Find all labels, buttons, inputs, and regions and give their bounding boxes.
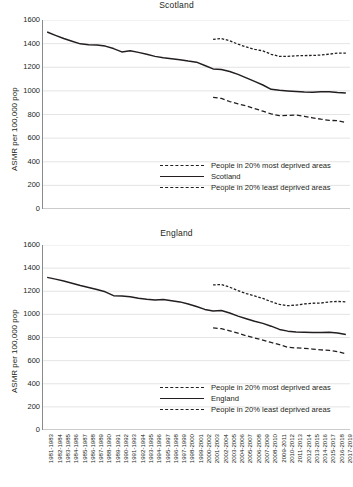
x-tick-label: 1985-1987 — [82, 434, 88, 463]
y-tick-label: 800 — [6, 334, 40, 342]
x-tick-label: 1990-1992 — [123, 434, 129, 463]
series-line — [213, 39, 346, 57]
y-tick-label: 600 — [6, 134, 40, 142]
legend-item: Scotland — [160, 171, 331, 182]
x-tick-label: 1983-1985 — [65, 434, 71, 463]
y-tick-label: 1400 — [6, 40, 40, 48]
x-tick-label: 2013-2015 — [314, 434, 320, 463]
y-tick-label: 200 — [6, 182, 40, 190]
y-tick-label: 800 — [6, 111, 40, 119]
legend-scotland: People in 20% most deprived areasScotlan… — [160, 160, 331, 193]
x-tick-label: 2001-2003 — [214, 434, 220, 463]
series-line — [47, 32, 346, 93]
x-tick-label: 1994-1996 — [156, 434, 162, 463]
x-tick-label: 2000-2002 — [206, 434, 212, 463]
panel-title-england: England — [0, 228, 353, 238]
legend-key-solid-icon — [160, 398, 204, 399]
x-tick-label: 2012-2014 — [306, 434, 312, 463]
legend-item: People in 20% least deprived areas — [160, 182, 331, 193]
x-tick-label: 2005-2007 — [247, 434, 253, 463]
x-tick-label: 1999-2001 — [198, 434, 204, 463]
x-tick-label: 1982-1984 — [57, 434, 63, 463]
x-tick-label: 2008-2010 — [272, 434, 278, 463]
y-tick-label: 0 — [6, 205, 40, 213]
legend-label: People in 20% least deprived areas — [211, 405, 330, 414]
x-tick-label: 2017-2019 — [347, 434, 353, 463]
series-line — [47, 277, 346, 334]
x-tick-label: 1995-1997 — [165, 434, 171, 463]
x-tick-label: 2004-2006 — [239, 434, 245, 463]
x-tick-label: 2009-2011 — [281, 434, 287, 463]
x-tick-label: 1997-1999 — [181, 434, 187, 463]
figure-root: Scotland ASMR per 100,000 pop 0200400600… — [0, 0, 353, 487]
legend-item: People in 20% least deprived areas — [160, 404, 331, 415]
x-tick-label: 1991-1993 — [131, 434, 137, 463]
legend-key-dotted-icon — [160, 165, 204, 166]
x-axis-ticks: 1981-19831982-19841983-19851984-19861985… — [42, 434, 349, 487]
x-tick-label: 2011-2013 — [297, 434, 303, 463]
y-tick-label: 0 — [6, 426, 40, 434]
legend-label: People in 20% least deprived areas — [211, 183, 330, 192]
x-tick-label: 2014-2016 — [322, 434, 328, 463]
y-tick-label: 400 — [6, 380, 40, 388]
x-tick-label: 1981-1983 — [48, 434, 54, 463]
x-tick-label: 1992-1994 — [140, 434, 146, 463]
legend-label: People in 20% most deprived areas — [211, 383, 331, 392]
legend-item: People in 20% most deprived areas — [160, 160, 331, 171]
panel-title-scotland: Scotland — [0, 0, 353, 10]
y-tick-label: 1000 — [6, 311, 40, 319]
y-tick-label: 1200 — [6, 288, 40, 296]
series-line — [213, 285, 346, 306]
chart-panel-scotland: Scotland ASMR per 100,000 pop 0200400600… — [0, 0, 353, 232]
x-tick-label: 2003-2005 — [231, 434, 237, 463]
x-tick-label: 2006-2008 — [256, 434, 262, 463]
x-tick-label: 2007-2009 — [264, 434, 270, 463]
x-tick-label: 1988-1990 — [106, 434, 112, 463]
legend-item: England — [160, 393, 331, 404]
legend-england: People in 20% most deprived areasEngland… — [160, 382, 331, 415]
legend-item: People in 20% most deprived areas — [160, 382, 331, 393]
legend-key-dashed-icon — [160, 409, 204, 410]
legend-key-dashed-icon — [160, 187, 204, 188]
x-tick-label: 1987-1989 — [98, 434, 104, 463]
y-tick-label: 1600 — [6, 16, 40, 24]
y-tick-label: 1000 — [6, 87, 40, 95]
series-line — [213, 97, 346, 122]
legend-label: People in 20% most deprived areas — [211, 161, 331, 170]
x-tick-label: 1998-2000 — [189, 434, 195, 463]
y-tick-label: 1400 — [6, 264, 40, 272]
legend-label: England — [211, 394, 239, 403]
y-axis-ticks-england: 02004006008001000120014001600 — [0, 245, 40, 430]
x-tick-label: 2016-2018 — [339, 434, 345, 463]
x-tick-label: 1984-1986 — [73, 434, 79, 463]
legend-key-dotted-icon — [160, 387, 204, 388]
x-tick-label: 2015-2017 — [330, 434, 336, 463]
x-tick-label: 1993-1995 — [148, 434, 154, 463]
legend-label: Scotland — [211, 172, 241, 181]
legend-key-solid-icon — [160, 176, 204, 177]
y-tick-label: 1200 — [6, 64, 40, 72]
y-axis-ticks-scotland: 02004006008001000120014001600 — [0, 20, 40, 209]
x-tick-label: 2010-2012 — [289, 434, 295, 463]
y-tick-label: 200 — [6, 403, 40, 411]
x-tick-label: 2002-2004 — [223, 434, 229, 463]
chart-panel-england: England ASMR per 100,000 pop 02004006008… — [0, 228, 353, 487]
x-tick-label: 1996-1998 — [173, 434, 179, 463]
y-tick-label: 1600 — [6, 241, 40, 249]
x-tick-label: 1986-1988 — [90, 434, 96, 463]
y-tick-label: 600 — [6, 357, 40, 365]
x-tick-label: 1989-1991 — [115, 434, 121, 463]
y-tick-label: 400 — [6, 158, 40, 166]
